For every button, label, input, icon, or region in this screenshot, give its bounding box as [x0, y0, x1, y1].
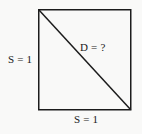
square-diagonal-figure [0, 0, 142, 134]
geometry-diagram: S = 1 S = 1 D = ? [0, 0, 142, 134]
side-label-left: S = 1 [8, 53, 32, 65]
side-label-bottom: S = 1 [74, 113, 98, 125]
diagonal-label: D = ? [80, 41, 106, 53]
diagonal-line [39, 10, 131, 110]
